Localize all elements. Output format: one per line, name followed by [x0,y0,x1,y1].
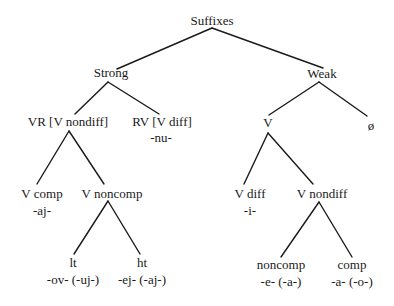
edge-v-vnondiff [268,133,313,184]
node-v-comp: V comp [21,187,62,201]
node-v-noncomp: V noncomp [82,187,143,201]
node-strong: Strong [94,66,129,80]
node-suffixes: Suffixes [190,14,233,28]
suffix-lt: -ov- (-uj-) [47,273,99,287]
node-vr-nondiff: VR [V nondiff] [28,115,108,129]
node-v-diff: V diff [235,187,266,201]
suffix-v-comp: -aj- [33,204,51,218]
node-v: V [263,116,272,130]
edge-vnoncomp-ht [108,201,140,254]
edge-suffixes-strong [117,28,212,69]
edge-strong-rv [108,82,159,114]
suffix-rv-nu: -nu- [150,131,172,145]
node-noncomp: noncomp [257,258,305,272]
suffix-v-diff: -i- [244,204,256,218]
node-lt: lt [69,256,76,270]
edge-strong-vr [75,82,108,114]
node-rv-diff: RV [V diff] [132,115,192,129]
edge-suffixes-weak [212,28,323,68]
edge-v-vdiff [244,133,268,184]
node-null: ø [368,119,375,133]
tree-edges [0,0,394,306]
node-ht: ht [137,256,147,270]
node-weak: Weak [307,67,336,81]
suffix-comp: -a- (-o-) [331,275,373,289]
edge-vnondiff-comp [319,202,352,257]
edge-vr-vcomp [37,131,69,184]
node-comp: comp [338,258,367,272]
suffix-noncomp: -e- (-a-) [261,275,302,289]
edge-vnoncomp-lt [74,201,108,254]
suffix-ht: -ej- (-aj-) [118,273,166,287]
edge-vr-vnoncomp [69,131,104,184]
node-v-nondiff: V nondiff [297,187,347,201]
edge-vnondiff-noncomp [281,202,319,257]
edge-weak-null [319,82,367,116]
edge-weak-v [269,82,319,115]
